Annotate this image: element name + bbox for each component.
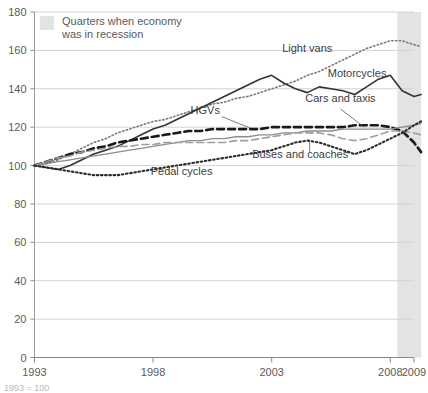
legend-label-line2: was in recession [61, 28, 143, 40]
series-label: Motorcycles [328, 67, 387, 79]
chart-canvas: 020406080100120140160180 199319982003200… [0, 0, 428, 393]
x-tick-label: 2003 [259, 366, 283, 378]
y-tick-label: 60 [14, 236, 26, 248]
y-tick-label: 0 [20, 352, 26, 364]
gridlines [35, 12, 415, 319]
legend-label-line1: Quarters when economy [62, 15, 182, 27]
y-tick-label: 180 [8, 6, 26, 18]
series-line [35, 75, 422, 169]
y-tick-label: 20 [14, 313, 26, 325]
series-line [35, 125, 422, 165]
recession-band-group [397, 12, 421, 358]
label-leader-lines [222, 109, 364, 153]
footnote-index-base: 1993 = 100 [4, 383, 49, 393]
x-tick-label: 2008 [378, 366, 402, 378]
legend: Quarters when economy was in recession [40, 15, 182, 40]
series-label: Pedal cycles [151, 165, 213, 177]
leader-line [222, 117, 250, 129]
y-tick-label: 140 [8, 83, 26, 95]
y-tick-label: 160 [8, 44, 26, 56]
series-label: HGVs [191, 104, 221, 116]
y-tick-label: 120 [8, 121, 26, 133]
series-label: Light vans [282, 42, 333, 54]
series-labels: Light vansMotorcyclesHGVsCars and taxisB… [151, 42, 387, 177]
y-tick-label: 100 [8, 160, 26, 172]
series-label: Cars and taxis [305, 92, 376, 104]
x-tick-label: 1993 [22, 366, 46, 378]
x-tick-label: 2009 [402, 366, 426, 378]
x-tick-label: 1998 [141, 366, 165, 378]
y-axis-ticks: 020406080100120140160180 [8, 6, 34, 364]
recession-shaded-band [397, 12, 421, 358]
y-tick-label: 40 [14, 275, 26, 287]
series-lines [35, 41, 422, 175]
series-label: Buses and coaches [252, 148, 349, 160]
legend-swatch-recession [40, 16, 54, 30]
x-axis-ticks: 19931998200320082009 [22, 358, 426, 378]
y-tick-label: 80 [14, 198, 26, 210]
line-chart: 020406080100120140160180 199319982003200… [0, 0, 428, 393]
